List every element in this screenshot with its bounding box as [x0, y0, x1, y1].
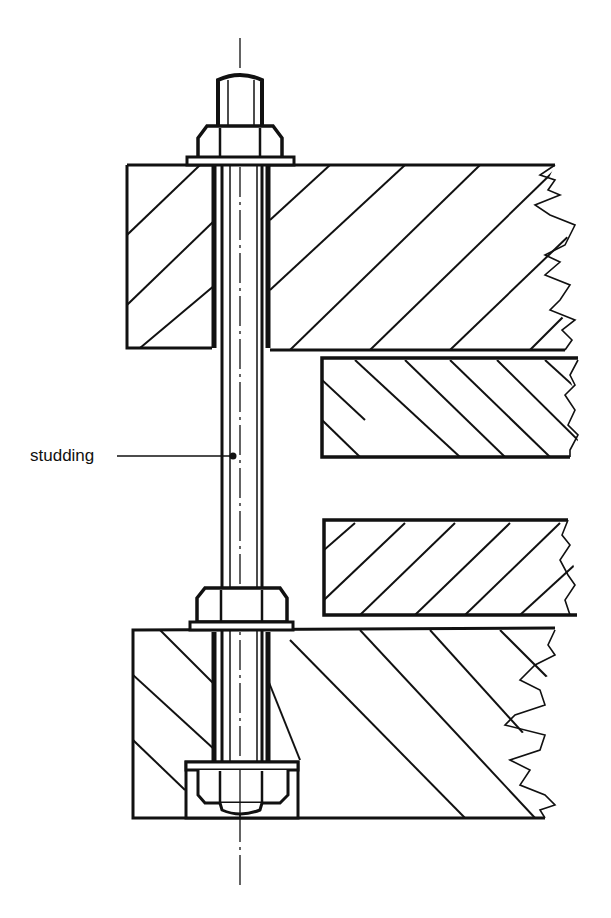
top-timber-block — [127, 165, 590, 350]
middle-nut — [190, 588, 293, 630]
studding-label: studding — [30, 447, 94, 464]
top-washer — [187, 157, 294, 165]
studding-leader — [117, 453, 237, 460]
lower-middle-timber-block — [324, 520, 580, 615]
bottom-washer — [186, 762, 298, 770]
middle-washer — [190, 622, 293, 630]
upper-middle-timber-block — [322, 358, 600, 457]
top-nut — [187, 126, 294, 165]
leader-dot — [230, 453, 237, 460]
